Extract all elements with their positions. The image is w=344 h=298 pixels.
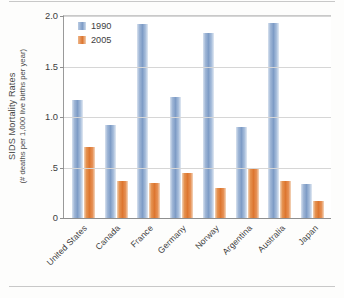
x-axis-tick-cell: Canada (99, 221, 132, 281)
bar-2005-argentina (248, 168, 259, 219)
bar-2005-canada (117, 181, 128, 218)
x-axis-tick-labels: United StatesCanadaFranceGermanyNorwayAr… (63, 221, 331, 281)
bar-2005-united-states (84, 147, 95, 218)
x-axis-tick-cell: Japan (296, 221, 329, 281)
sids-mortality-bar-chart: SIDS Mortality Rates (# deaths per 1,000… (0, 0, 344, 298)
x-axis-tick-cell: Argentina (230, 221, 263, 281)
bar-2005-germany (182, 173, 193, 218)
y-axis-tick-mark (60, 168, 64, 169)
bar-1990-canada (105, 125, 116, 218)
page-rule-bottom (9, 286, 335, 287)
bar-1990-argentina (236, 127, 247, 218)
gridline (64, 16, 331, 17)
y-axis-tick-mark (60, 218, 64, 219)
x-axis-tick-cell: Australia (263, 221, 296, 281)
bar-2005-norway (215, 188, 226, 218)
bar-1990-australia (268, 23, 279, 218)
y-axis-tick-label: .5 (50, 161, 58, 172)
x-axis-tick-cell: Germany (165, 221, 198, 281)
x-axis-tick-cell: United States (66, 221, 99, 281)
y-axis-tick-labels: 0.51.01.52.0 (30, 0, 62, 232)
gridline (64, 117, 331, 118)
legend: 19902005 (78, 21, 111, 45)
bar-1990-norway (203, 33, 214, 218)
y-axis-tick-mark (60, 117, 64, 118)
legend-item-1990: 1990 (78, 21, 111, 31)
y-axis-tick-label: 1.0 (45, 111, 58, 122)
x-axis-tick-label: Canada (94, 223, 123, 252)
plot-area (63, 15, 331, 219)
bar-2005-australia (280, 181, 291, 218)
bar-1990-germany (170, 97, 181, 218)
bar-1990-france (137, 24, 148, 218)
bar-1990-japan (301, 184, 312, 218)
legend-label: 2005 (91, 35, 111, 45)
bar-2005-japan (313, 201, 324, 218)
y-axis-tick-mark (60, 16, 64, 17)
x-axis-tick-label: Japan (296, 223, 320, 247)
y-axis-tick-mark (60, 67, 64, 68)
x-axis-tick-label: Norway (193, 223, 221, 251)
y-axis-title: SIDS Mortality Rates (# deaths per 1,000… (0, 0, 34, 232)
x-axis-tick-label: France (129, 223, 155, 249)
legend-item-2005: 2005 (78, 35, 111, 45)
y-axis-tick-label: 0 (53, 212, 58, 223)
gridline (64, 67, 331, 68)
y-axis-tick-label: 2.0 (45, 10, 58, 21)
legend-swatch-icon (78, 22, 86, 30)
legend-label: 1990 (91, 21, 111, 31)
y-axis-title-sub: (# deaths per 1,000 live births per year… (18, 49, 27, 184)
legend-swatch-icon (78, 36, 86, 44)
y-axis-title-main: SIDS Mortality Rates (7, 49, 18, 184)
y-axis-tick-label: 1.5 (45, 60, 58, 71)
bar-2005-france (149, 183, 160, 218)
gridline (64, 168, 331, 169)
